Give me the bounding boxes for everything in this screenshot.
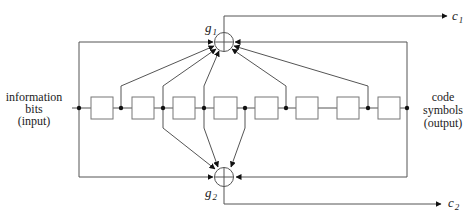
g2-label: g2 [205,185,218,202]
input-label: information bits (input) [6,90,63,128]
svg-text:(input): (input) [18,114,51,128]
c2-label: c2 [448,195,460,212]
register-cell-3 [173,97,195,119]
register-cell-7 [337,97,359,119]
register-cell-4 [214,97,237,119]
register-cell-1 [91,97,113,119]
output-label: code symbols (output) [423,90,463,130]
svg-text:(output): (output) [424,116,463,130]
c1-label: c1 [452,8,463,25]
convolutional-encoder-diagram: g1 g2 c1 c2 information bits (input) cod… [0,0,475,219]
svg-text:symbols: symbols [423,103,463,117]
register-cell-5 [255,97,278,119]
svg-text:code: code [432,90,455,104]
shift-register [91,97,407,119]
g1-label: g1 [205,20,217,37]
register-cell-2 [132,97,154,119]
register-cell-6 [296,97,318,119]
adder-g1 [215,16,448,52]
register-cell-8 [378,97,400,119]
